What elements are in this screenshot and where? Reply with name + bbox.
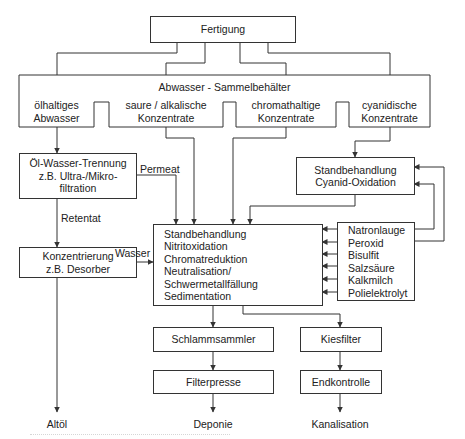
node-fertigung-label: Fertigung xyxy=(201,23,245,36)
edge-label-permeat: Permeat xyxy=(140,163,180,175)
node-oel-wasser-trennung: Öl-Wasser-Trennung z.B. Ultra-/Mikro- fi… xyxy=(19,153,137,199)
edge-label-wasser: Wasser xyxy=(115,247,150,259)
output-kanalisation: Kanalisation xyxy=(295,418,385,431)
node-kiesfilter: Kiesfilter xyxy=(300,327,382,352)
output-altoel: Altöl xyxy=(27,418,87,431)
node-schlammsammler: Schlammsammler xyxy=(153,327,274,352)
node-sammelbehaelter: Abwasser - Sammelbehälter ölhaltiges Abw… xyxy=(19,75,430,127)
edge-label-retentat: Retentat xyxy=(61,212,101,224)
node-standbehandlung-haupt: Standbehandlung Nitritoxidation Chromatr… xyxy=(153,224,323,306)
compartment-oelhaltig: ölhaltiges Abwasser xyxy=(19,99,94,124)
node-chemikalien: Natronlauge Peroxid Bisulfit Salzsäure K… xyxy=(337,222,415,301)
node-fertigung: Fertigung xyxy=(150,16,296,43)
compartment-chromathaltig: chromathaltige Konzentrate xyxy=(236,99,336,124)
node-cyanid-oxidation: Standbehandlung Cyanid-Oxidation xyxy=(296,157,415,195)
compartment-cyanidisch: cyanidische Konzentrate xyxy=(349,99,430,124)
output-deponie: Deponie xyxy=(173,418,253,431)
sammelbehaelter-title: Abwasser - Sammelbehälter xyxy=(19,81,430,94)
node-endkontrolle: Endkontrolle xyxy=(300,370,382,394)
node-filterpresse: Filterpresse xyxy=(153,370,274,394)
caption-remnant xyxy=(30,434,230,439)
compartment-sauer-alkalisch: saure / alkalische Konzentrate xyxy=(109,99,223,124)
